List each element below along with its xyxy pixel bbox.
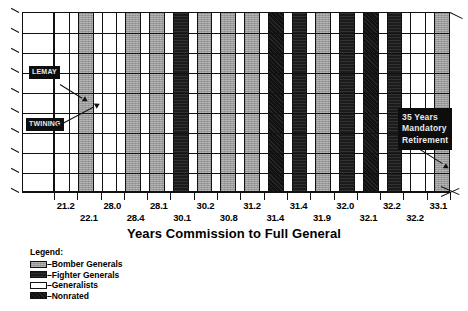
bar-rung — [141, 113, 149, 114]
bar-rung — [260, 33, 268, 34]
bar-rung — [355, 113, 363, 114]
legend-swatch-generalist — [30, 282, 47, 289]
bar-rung — [307, 173, 315, 174]
bar-rung — [141, 173, 149, 174]
x-tick-label: 28.0 — [103, 200, 121, 211]
bar-rung — [70, 133, 78, 134]
bar-rung — [126, 173, 140, 174]
bar-rung — [103, 93, 117, 94]
bar-rung — [117, 33, 125, 34]
bar-rung — [174, 53, 188, 54]
bar-rung — [236, 93, 244, 94]
bar-rung — [435, 53, 449, 54]
bar-rung — [411, 53, 425, 54]
annotation-lemay: LEMAY — [29, 66, 60, 79]
bar-rung — [331, 113, 339, 114]
bar-rung — [103, 53, 117, 54]
bar-rung — [189, 113, 197, 114]
bar-rung — [340, 113, 354, 114]
y-axis-nib — [11, 168, 19, 173]
bar-rung — [316, 173, 330, 174]
bar-gap — [402, 13, 411, 191]
bar-rung — [79, 173, 93, 174]
bar-rung — [165, 133, 173, 134]
bar-rung — [189, 153, 197, 154]
bar-rung — [212, 33, 220, 34]
bar-rung — [307, 133, 315, 134]
bar-rung — [141, 93, 149, 94]
bar-rung — [269, 93, 283, 94]
bar-rung — [212, 173, 220, 174]
bar-rung — [426, 33, 434, 34]
bar-rung — [364, 173, 378, 174]
bar-rung — [388, 173, 402, 174]
x-tick-label: 30.1 — [173, 212, 191, 223]
bar-rung — [174, 73, 188, 74]
bar-rung — [388, 33, 402, 34]
x-tick-label: 32.1 — [360, 212, 378, 223]
x-tick-label: 32.2 — [406, 212, 424, 223]
bar-rung — [94, 33, 102, 34]
bar-rung — [165, 153, 173, 154]
bar-rung — [126, 153, 140, 154]
bar-rung — [411, 173, 425, 174]
bar-gap — [426, 13, 435, 191]
depth-rung — [23, 133, 53, 134]
bar-rung — [165, 173, 173, 174]
bar-rung — [236, 33, 244, 34]
bar-30-8 — [221, 13, 236, 191]
bar-rung — [141, 133, 149, 134]
bar-rung — [435, 33, 449, 34]
bar-rung — [198, 53, 212, 54]
bar-rung — [198, 153, 212, 154]
bar-rung — [307, 73, 315, 74]
y-axis-nib — [11, 8, 19, 13]
bar-28-4 — [126, 13, 141, 191]
bar-rung — [260, 173, 268, 174]
bar-gap — [307, 13, 316, 191]
bar-rung — [141, 153, 149, 154]
bar-rung — [212, 93, 220, 94]
bar-rung — [141, 73, 149, 74]
bar-rung — [174, 113, 188, 114]
bar-rung — [293, 93, 307, 94]
bar-rung — [198, 133, 212, 134]
bar-rung — [355, 73, 363, 74]
bar-31-9 — [316, 13, 331, 191]
x-tick-label: 30.8 — [220, 212, 238, 223]
bar-rung — [55, 113, 69, 114]
bar-rung — [402, 53, 410, 54]
depth-rung — [23, 113, 53, 114]
bar-rung — [165, 73, 173, 74]
bar-rung — [316, 113, 330, 114]
bar-rung — [245, 33, 259, 34]
x-axis-title: Years Commission to Full General — [0, 226, 468, 241]
bar-rung — [126, 133, 140, 134]
bar-rung — [331, 33, 339, 34]
bar-31-4 — [269, 13, 284, 191]
bar-rung — [94, 53, 102, 54]
x-tick-label: 32.2 — [383, 200, 401, 211]
bar-rung — [260, 133, 268, 134]
bar-rung — [174, 133, 188, 134]
bar-rung — [189, 53, 197, 54]
bar-rung — [198, 93, 212, 94]
x-tick-label: 31.9 — [313, 212, 331, 223]
bar-rung — [340, 173, 354, 174]
bar-rung — [103, 173, 117, 174]
bar-rung — [293, 133, 307, 134]
bar-rung — [245, 53, 259, 54]
x-tick-label: 30.2 — [197, 200, 215, 211]
legend-title: Legend: — [30, 247, 250, 257]
bar-rung — [435, 73, 449, 74]
x-tick-label: 21.2 — [57, 200, 75, 211]
bar-rung — [379, 153, 387, 154]
bar-rung — [269, 33, 283, 34]
bar-rung — [245, 173, 259, 174]
bar-rung — [379, 173, 387, 174]
chart-bars-container — [54, 12, 450, 192]
bar-rung — [55, 133, 69, 134]
bar-gap — [284, 13, 293, 191]
y-axis-nib — [11, 68, 19, 73]
bar-rung — [117, 133, 125, 134]
